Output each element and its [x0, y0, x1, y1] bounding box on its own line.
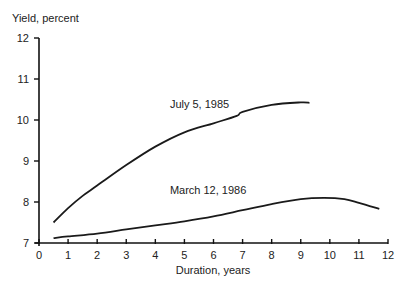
yield-curve-chart: Yield, percent 789101112 012345678910111…	[0, 0, 413, 288]
series-line-1	[54, 198, 380, 238]
y-tick-label: 10	[17, 114, 29, 126]
x-tick-label: 11	[353, 249, 364, 261]
series-label-1: March 12, 1986	[170, 184, 246, 196]
y-tick-label: 7	[23, 237, 29, 249]
x-tick-label: 9	[298, 249, 304, 261]
y-tick-label: 12	[17, 32, 29, 44]
x-tick-label: 7	[240, 249, 246, 261]
x-tick-label: 3	[123, 249, 129, 261]
x-axis: 0123456789101112	[35, 239, 394, 261]
x-axis-label: Duration, years	[176, 264, 251, 276]
y-tick-label: 11	[18, 73, 29, 85]
x-tick-label: 2	[94, 249, 100, 261]
y-tick-label: 9	[23, 155, 29, 167]
y-axis: 789101112	[17, 32, 39, 249]
x-tick-label: 5	[181, 249, 187, 261]
x-tick-label: 6	[210, 249, 216, 261]
series-label-0: July 5, 1985	[170, 98, 229, 110]
x-tick-label: 0	[36, 249, 42, 261]
x-tick-label: 10	[324, 249, 336, 261]
series-group: July 5, 1985March 12, 1986	[54, 98, 380, 238]
x-tick-label: 4	[152, 249, 158, 261]
y-axis-label: Yield, percent	[12, 12, 79, 24]
x-tick-label: 12	[382, 249, 394, 261]
x-tick-label: 1	[65, 249, 71, 261]
y-tick-label: 8	[23, 196, 29, 208]
x-tick-label: 8	[269, 249, 275, 261]
